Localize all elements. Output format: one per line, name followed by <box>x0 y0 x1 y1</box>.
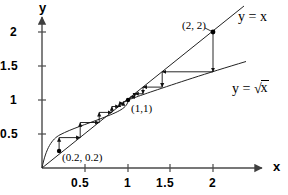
y-tick-label-1: 1 <box>10 94 17 106</box>
cobweb-plot-figure: y x 2 1.5 1 0.5 0.5 1 1.5 2 y = x y = √x… <box>0 0 288 195</box>
annotation-start-point-low: (0.2, 0.2) <box>62 152 102 163</box>
marker-start-point-low <box>57 149 61 153</box>
radical-sign: √x <box>254 81 269 96</box>
y-tick-label-2: 2 <box>10 26 17 38</box>
marker-fixed-point <box>126 98 130 102</box>
sqrt-curve-label: y = √x <box>232 81 269 96</box>
sqrt-radicand: x <box>261 80 269 95</box>
plot-canvas <box>0 0 288 195</box>
y-axis-label: y <box>39 1 46 14</box>
x-axis-label: x <box>273 160 280 173</box>
axes-group <box>42 17 262 168</box>
y-tick-label-0-5: 0.5 <box>0 128 18 140</box>
sqrt-label-prefix: y = <box>232 81 250 96</box>
y-tick-label-1-5: 1.5 <box>0 60 18 72</box>
x-tick-label-0-5: 0.5 <box>71 177 89 189</box>
x-tick-label-2: 2 <box>209 177 216 189</box>
x-tick-label-1-5: 1.5 <box>156 177 174 189</box>
identity-line-label: y = x <box>238 10 267 24</box>
annotation-start-point-high: (2, 2) <box>182 20 206 31</box>
x-tick-label-1: 1 <box>124 177 131 189</box>
marker-start-point-high <box>211 30 216 35</box>
annotation-fixed-point: (1,1) <box>131 103 152 114</box>
